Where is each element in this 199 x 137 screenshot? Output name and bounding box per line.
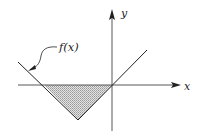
function-label: f(x) xyxy=(58,40,79,54)
annotation-arrow-icon xyxy=(28,65,36,71)
function-graph: x y f(x) xyxy=(0,0,199,137)
shaded-region xyxy=(44,85,112,120)
y-axis-label: y xyxy=(120,7,128,20)
x-axis-label: x xyxy=(184,80,191,93)
annotation-leader xyxy=(33,47,57,68)
